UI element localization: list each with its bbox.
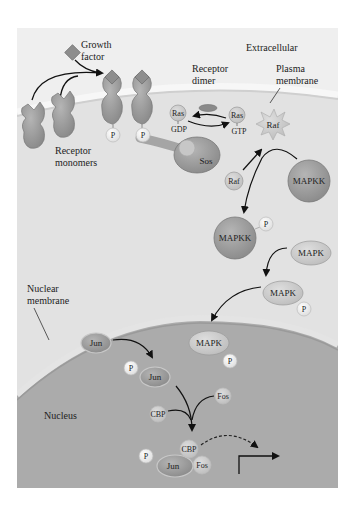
- svg-text:Jun: Jun: [167, 461, 180, 471]
- receptor-monomers-label-2: monomers: [55, 157, 97, 168]
- svg-text:P: P: [129, 364, 134, 373]
- svg-text:GTP: GTP: [231, 127, 247, 136]
- receptor-monomer: [52, 91, 75, 137]
- jun-inactive: Jun: [81, 333, 111, 353]
- nucleus-label: Nucleus: [44, 410, 77, 421]
- svg-text:MAPK: MAPK: [196, 338, 223, 348]
- svg-text:P: P: [144, 452, 149, 461]
- receptor-dimer-label: Receptor: [192, 63, 229, 74]
- svg-text:Jun: Jun: [149, 372, 162, 382]
- svg-text:Jun: Jun: [90, 338, 103, 348]
- nuclear-membrane-label: Nuclear: [27, 283, 59, 294]
- svg-text:Raf: Raf: [228, 177, 240, 186]
- svg-text:Raf: Raf: [267, 120, 280, 130]
- svg-text:P: P: [228, 357, 233, 366]
- svg-text:MAPK: MAPK: [270, 288, 297, 298]
- svg-text:Fos: Fos: [217, 392, 229, 401]
- mapk-inactive: MAPK: [291, 241, 331, 265]
- receptor-monomer: [22, 102, 45, 148]
- svg-text:MAPKK: MAPKK: [219, 233, 252, 243]
- sos-protein: Sos: [174, 137, 220, 173]
- svg-text:Sos: Sos: [199, 156, 213, 166]
- svg-text:MAPK: MAPK: [298, 248, 325, 258]
- svg-text:P: P: [141, 131, 146, 140]
- raf-inactive: Raf: [225, 172, 243, 190]
- signaling-pathway-diagram: Growth factor Extracellular Receptor dim…: [0, 0, 356, 511]
- gap-protein: [199, 105, 217, 112]
- svg-text:Fos: Fos: [196, 461, 208, 470]
- plasma-membrane-label: Plasma: [276, 63, 305, 74]
- phosphate: P: [136, 128, 150, 142]
- svg-text:P: P: [264, 220, 269, 229]
- svg-text:P: P: [302, 305, 307, 314]
- cbp-free: CBP: [150, 406, 166, 422]
- svg-text:Ras: Ras: [231, 111, 243, 120]
- svg-text:GDP: GDP: [171, 125, 188, 134]
- mapkk-inactive: MAPKK: [288, 160, 330, 202]
- fos-free: Fos: [215, 388, 231, 404]
- nuclear-membrane-label-2: membrane: [27, 295, 70, 306]
- receptor-dimer-label-2: dimer: [192, 75, 216, 86]
- svg-text:Ras: Ras: [172, 109, 184, 118]
- growth-factor-label-2: factor: [81, 51, 105, 62]
- svg-text:CBP: CBP: [181, 445, 197, 454]
- plasma-membrane-label-2: membrane: [276, 75, 319, 86]
- svg-text:MAPKK: MAPKK: [293, 176, 326, 186]
- phosphate: P: [106, 128, 120, 142]
- growth-factor-label: Growth: [81, 39, 112, 50]
- svg-text:P: P: [111, 131, 116, 140]
- receptor-monomers-label: Receptor: [55, 145, 92, 156]
- extracellular-label: Extracellular: [246, 42, 298, 53]
- svg-text:CBP: CBP: [150, 410, 166, 419]
